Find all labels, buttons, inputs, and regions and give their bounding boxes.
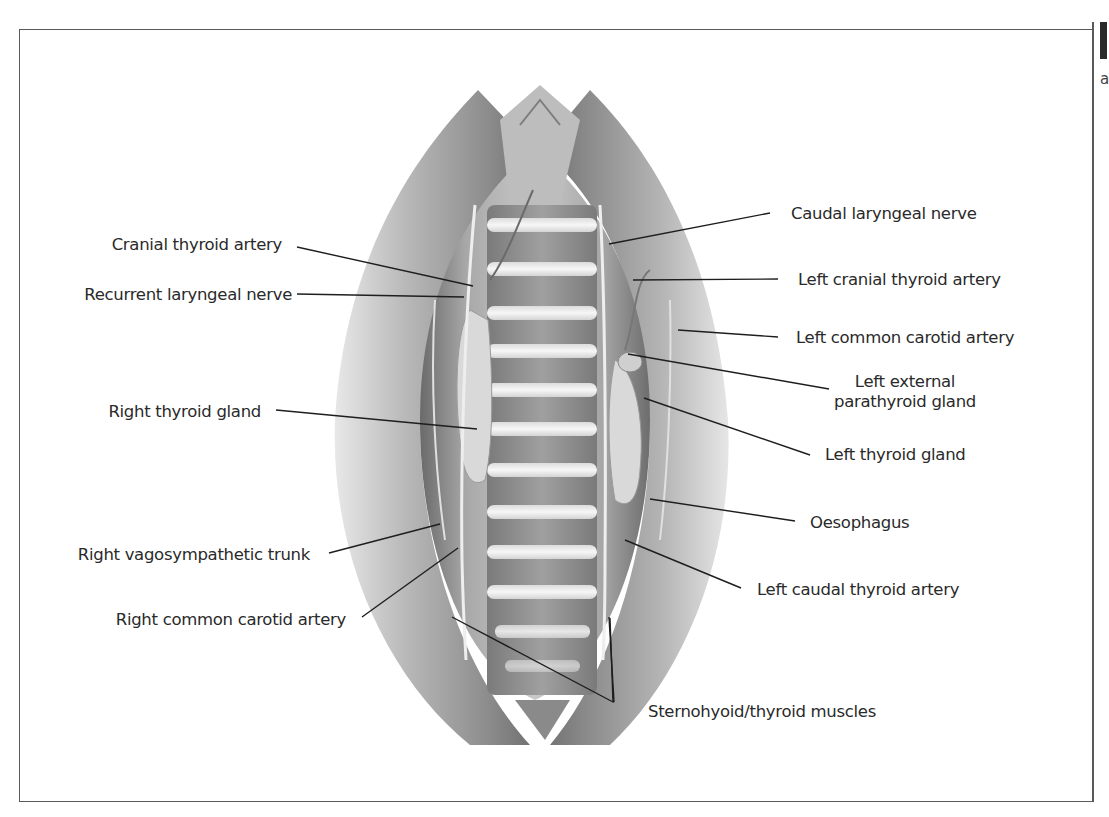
label-cranial-thyroid-artery: Cranial thyroid artery xyxy=(112,235,282,255)
label-right-common-carotid-artery: Right common carotid artery xyxy=(116,610,346,630)
label-line-2: parathyroid gland xyxy=(820,392,990,412)
label-left-external-parathyroid-gland: Left external parathyroid gland xyxy=(820,372,990,412)
label-caudal-laryngeal-nerve: Caudal laryngeal nerve xyxy=(791,204,976,224)
label-left-cranial-thyroid-artery: Left cranial thyroid artery xyxy=(798,270,1001,290)
label-right-thyroid-gland: Right thyroid gland xyxy=(108,402,261,422)
label-line-1: Left external xyxy=(820,372,990,392)
label-sternohyoid-thyroid-muscles: Sternohyoid/thyroid muscles xyxy=(648,702,876,722)
label-left-thyroid-gland: Left thyroid gland xyxy=(825,445,966,465)
label-left-caudal-thyroid-artery: Left caudal thyroid artery xyxy=(757,580,959,600)
label-left-common-carotid-artery: Left common carotid artery xyxy=(796,328,1014,348)
label-right-vagosympathetic-trunk: Right vagosympathetic trunk xyxy=(78,545,310,565)
label-recurrent-laryngeal-nerve: Recurrent laryngeal nerve xyxy=(84,285,292,305)
trachea xyxy=(487,205,597,695)
label-oesophagus: Oesophagus xyxy=(810,513,909,533)
